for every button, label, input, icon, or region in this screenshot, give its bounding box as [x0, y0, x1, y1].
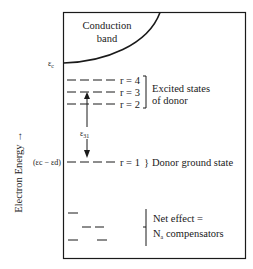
- level-label-r2: r = 2: [120, 99, 140, 110]
- ground-state-text: Donor ground state: [152, 157, 233, 168]
- transition-arrow-head-down-icon: [84, 150, 90, 158]
- excited-states-text-line2: of donor: [152, 95, 188, 106]
- excited-states-bracket: [143, 76, 146, 108]
- level-label-r3: r = 3: [120, 87, 140, 98]
- compensators-text-line2: Na compensators: [153, 228, 224, 240]
- conduction-band-label-line1: Conduction: [83, 20, 133, 31]
- ground-state-energy-label: (εc − εd): [33, 158, 61, 167]
- level-label-r1: r = 1: [120, 157, 140, 168]
- compensator-level-lines: [68, 213, 107, 240]
- excited-level-lines: [67, 80, 117, 104]
- conduction-edge-label: εc: [48, 59, 54, 69]
- level-label-r4: r = 4: [120, 75, 141, 86]
- transition-arrow-head-up-icon: [84, 92, 90, 99]
- ground-state-bracket: }: [144, 157, 149, 168]
- compensators-text-line1: Net effect =: [153, 213, 203, 224]
- conduction-band-label-line2: band: [97, 33, 118, 44]
- excited-states-text-line1: Excited states: [152, 83, 210, 94]
- energy-level-diagram: Conduction band εc r = 4 r = 3 r = 2 Exc…: [0, 0, 253, 269]
- y-axis-label: Electron Energy →: [13, 131, 24, 212]
